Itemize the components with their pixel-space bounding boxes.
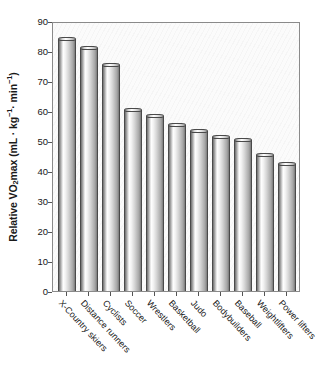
bar-cap xyxy=(80,46,98,50)
y-axis-tick-label: 90 xyxy=(28,17,48,27)
bar-cap xyxy=(102,63,120,67)
bar-cap xyxy=(190,129,208,133)
bar xyxy=(278,164,296,291)
bar-cap xyxy=(212,135,230,139)
y-axis-tick-label: 50 xyxy=(28,137,48,147)
x-axis-tick-mark xyxy=(66,292,67,296)
bar-cap xyxy=(256,153,274,157)
y-axis-tick-label: 20 xyxy=(28,227,48,237)
y-axis-tick-label: 60 xyxy=(28,107,48,117)
y-axis-tick-label: 70 xyxy=(28,77,48,87)
bar-cap xyxy=(124,108,142,112)
bar-cap xyxy=(146,114,164,118)
bar-cap xyxy=(58,37,76,41)
y-axis-tick-label: 30 xyxy=(28,197,48,207)
y-axis-tick-label: 10 xyxy=(28,257,48,267)
bar xyxy=(234,140,252,291)
y-axis-title-mid: max (mL · kg xyxy=(7,117,19,180)
bar xyxy=(58,39,76,291)
bar-cap xyxy=(278,162,296,166)
x-axis-tick-mark xyxy=(154,292,155,296)
bar xyxy=(102,65,120,292)
x-axis-tick-mark xyxy=(220,292,221,296)
x-axis-category-label: Judo xyxy=(189,298,210,319)
y-axis-tick-label: 40 xyxy=(28,167,48,177)
x-axis-tick-mark xyxy=(264,292,265,296)
bars-container xyxy=(53,23,299,291)
bar xyxy=(212,137,230,291)
y-axis-title-sup2: −1 xyxy=(5,76,14,84)
x-axis-tick-mark xyxy=(132,292,133,296)
x-axis-tick-mark xyxy=(110,292,111,296)
x-axis-tick-mark xyxy=(176,292,177,296)
bar-cap xyxy=(168,123,186,127)
bar xyxy=(146,116,164,291)
bar-cap xyxy=(234,138,252,142)
bar xyxy=(256,155,274,291)
y-axis-tick-label: 80 xyxy=(28,47,48,57)
y-axis-title-sup1: −1 xyxy=(5,109,14,117)
y-axis-title-mid2: · min xyxy=(7,84,19,109)
bar xyxy=(168,125,186,292)
chart-figure: Relative VO2 max (mL · kg−1 · min−1) 010… xyxy=(0,0,325,375)
bar xyxy=(80,48,98,291)
x-axis-tick-mark xyxy=(286,292,287,296)
y-axis-title-prefix: Relative VO xyxy=(7,184,19,241)
plot-area xyxy=(52,22,300,292)
x-axis-tick-mark xyxy=(242,292,243,296)
x-axis-tick-mark xyxy=(88,292,89,296)
x-axis-tick-mark xyxy=(198,292,199,296)
y-axis-title-sub: 2 xyxy=(11,180,20,184)
x-axis-category-labels: X-Country skiersDistance runnersCyclists… xyxy=(0,292,325,375)
bar xyxy=(190,131,208,292)
bar xyxy=(124,110,142,292)
y-axis-title: Relative VO2 max (mL · kg−1 · min−1) xyxy=(4,22,22,292)
